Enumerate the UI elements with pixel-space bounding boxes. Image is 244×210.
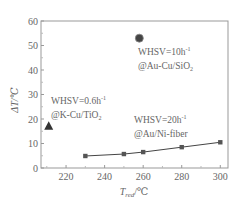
annotation-au-cu-sio2: WHSV=10h-1 @Au-Cu/SiO2 bbox=[138, 46, 193, 72]
annotation-au-ni-fiber: WHSV=20h-1 @Au/Ni-fiber bbox=[134, 114, 188, 139]
series-circle bbox=[135, 34, 143, 42]
square-marker bbox=[218, 140, 222, 144]
y-tick-label: 0 bbox=[33, 163, 38, 174]
svg-text:@Au-Cu/SiO2: @Au-Cu/SiO2 bbox=[138, 61, 193, 72]
chart: 0102030405060 220240260280300 ΔT/℃ Tred/… bbox=[0, 0, 244, 210]
y-axis-ticks: 0102030405060 bbox=[28, 16, 44, 174]
y-tick-label: 50 bbox=[28, 40, 38, 51]
plot-frame bbox=[41, 21, 228, 168]
series-square bbox=[83, 140, 222, 158]
annotation-k-cu-tio2: WHSV=0.6h-1 @K-Cu/TiO2 bbox=[51, 95, 106, 121]
x-axis-label: Tred/℃ bbox=[120, 186, 149, 199]
y-tick-label: 10 bbox=[28, 138, 38, 149]
y-tick-label: 20 bbox=[28, 114, 38, 125]
square-marker bbox=[122, 152, 126, 156]
triangle-marker bbox=[44, 121, 53, 130]
svg-text:WHSV=10h-1: WHSV=10h-1 bbox=[138, 46, 191, 57]
x-tick-label: 300 bbox=[213, 171, 228, 182]
square-marker bbox=[180, 145, 184, 149]
y-tick-label: 60 bbox=[28, 16, 38, 27]
series-triangle bbox=[44, 121, 53, 130]
svg-text:WHSV=0.6h-1: WHSV=0.6h-1 bbox=[51, 95, 106, 106]
x-tick-label: 280 bbox=[174, 171, 189, 182]
svg-text:@K-Cu/TiO2: @K-Cu/TiO2 bbox=[51, 110, 101, 121]
y-tick-label: 30 bbox=[28, 89, 38, 100]
x-axis-label-unit: /℃ bbox=[134, 186, 148, 197]
x-tick-label: 220 bbox=[59, 171, 74, 182]
x-tick-label: 260 bbox=[136, 171, 151, 182]
square-marker bbox=[141, 150, 145, 154]
x-tick-label: 240 bbox=[97, 171, 112, 182]
y-axis-label: ΔT/℃ bbox=[9, 87, 20, 113]
square-marker bbox=[83, 154, 87, 158]
svg-text:WHSV=20h-1: WHSV=20h-1 bbox=[134, 114, 187, 125]
y-tick-label: 40 bbox=[28, 65, 38, 76]
circle-marker bbox=[135, 34, 143, 42]
svg-text:@Au/Ni-fiber: @Au/Ni-fiber bbox=[134, 129, 188, 139]
